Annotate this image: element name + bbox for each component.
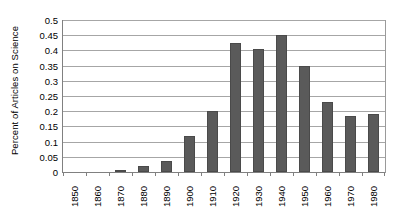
x-axis-tick	[132, 173, 133, 176]
y-axis-tick-label: 0.35	[26, 60, 58, 71]
bar	[276, 35, 288, 172]
x-axis-tick	[63, 173, 64, 176]
bars-layer	[63, 20, 385, 172]
bar	[345, 116, 357, 172]
bar	[138, 166, 150, 172]
y-axis-tick-label: 0.05	[26, 151, 58, 162]
x-axis-tick	[155, 173, 156, 176]
x-axis-tick	[224, 173, 225, 176]
x-axis-tick	[339, 173, 340, 176]
bar	[230, 43, 242, 172]
bar	[299, 66, 311, 172]
y-axis-tick-label: 0.15	[26, 121, 58, 132]
bar	[115, 170, 127, 172]
x-axis-tick	[247, 173, 248, 176]
bar	[253, 49, 265, 172]
y-axis-tick-label: 0.5	[26, 15, 58, 26]
x-axis-tick-labels: 1850186018701880189019001910192019301940…	[63, 178, 385, 216]
x-axis-tick	[362, 173, 363, 176]
bar	[368, 114, 380, 172]
plot-frame-right-edge	[385, 20, 386, 173]
y-axis-tick-label: 0.45	[26, 30, 58, 41]
bar	[161, 161, 173, 172]
y-axis-tick-label: 0	[26, 167, 58, 178]
x-axis-tick	[201, 173, 202, 176]
x-axis-ticks	[63, 173, 385, 177]
x-axis-tick-label: 1980	[355, 178, 393, 216]
y-axis-title-text: Percent of Articles on Science	[10, 25, 21, 154]
bar	[184, 136, 196, 172]
x-axis-tick	[86, 173, 87, 176]
y-axis-tick-label: 0.4	[26, 45, 58, 56]
x-axis-tick	[178, 173, 179, 176]
x-axis-tick	[109, 173, 110, 176]
y-axis-tick-label: 0.25	[26, 91, 58, 102]
x-axis-tick	[293, 173, 294, 176]
y-axis-tick-label: 0.3	[26, 75, 58, 86]
x-axis-tick	[270, 173, 271, 176]
bar	[322, 102, 334, 172]
y-axis-tick-label: 0.2	[26, 106, 58, 117]
bar	[207, 111, 219, 172]
x-axis-tick	[316, 173, 317, 176]
y-axis-tick-label: 0.1	[26, 136, 58, 147]
x-axis-tick-label-text: 1980	[368, 186, 379, 207]
bar-chart: Percent of Articles on Science 00.050.10…	[0, 0, 396, 217]
x-axis-tick	[384, 173, 385, 176]
y-axis-tick-labels: 00.050.10.150.20.250.30.350.40.450.5	[26, 20, 58, 172]
